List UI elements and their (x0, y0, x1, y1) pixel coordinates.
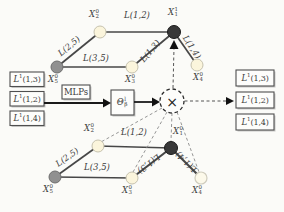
var-scripts: 04 (199, 185, 203, 194)
dashed-arrow-up-head (170, 40, 179, 49)
multiply-symbol: × (166, 94, 178, 110)
diagram-graphics: × (0, 0, 284, 212)
node-top-x4 (191, 59, 203, 71)
var-args: (1,3) (251, 74, 269, 83)
edge-label-bottom-l35: L(3,5) (84, 162, 110, 172)
var-sub: 2 (96, 14, 100, 19)
var-scripts: 02 (91, 123, 95, 132)
var-sub: 1 (175, 12, 179, 17)
var-sub: 3 (129, 190, 133, 195)
var-sub: 5 (55, 79, 59, 84)
var-base: X (89, 9, 95, 19)
mlps-label: MLPs (64, 87, 88, 97)
var-sub: 1 (180, 131, 184, 136)
solid-arrows (44, 98, 160, 108)
right-box-label-2: L1(1,2) (241, 95, 268, 105)
var-args: (1,2) (251, 96, 269, 105)
var-sup: 1 (19, 73, 23, 79)
var-base: X (125, 74, 131, 84)
var-args: (1,2) (23, 95, 41, 104)
var-sub: 4 (200, 77, 204, 82)
var-base: X (173, 126, 179, 136)
edge-bottom-l35 (55, 177, 132, 178)
dashed-arrow-right-head (226, 97, 234, 105)
node-label-top-x5: X 05 (48, 74, 58, 84)
var-sub: 4 (199, 190, 203, 195)
var-scripts: 03 (129, 185, 133, 194)
var-scripts: 04 (200, 72, 204, 81)
var-base: X (48, 74, 54, 84)
var-scripts: 03 (132, 74, 136, 83)
var-base: Θ (117, 97, 124, 107)
node-label-bottom-x1: X 01 (173, 126, 183, 136)
var-base: X (122, 185, 128, 195)
arrow-left-to-theta-head (103, 99, 111, 108)
dashed-to-x1-bottom (171, 113, 172, 141)
var-base: X (43, 184, 49, 194)
dashed-arrow-up (170, 40, 179, 88)
theta-label: Θ lβ (117, 97, 128, 107)
right-box-label-1: L1(1,3) (241, 73, 268, 83)
node-bottom-x3 (126, 172, 138, 184)
node-label-bottom-x4: X 04 (192, 185, 202, 195)
node-bottom-x2 (92, 140, 104, 152)
var-scripts: 11 (175, 7, 179, 16)
node-label-bottom-x2: X 02 (84, 123, 94, 133)
dashed-arrow-right (185, 97, 235, 105)
left-box-label-2: L1(1,2) (13, 94, 40, 104)
node-top-x1 (168, 26, 181, 39)
left-box-label-3: L1(1,4) (13, 113, 40, 123)
right-box-label-3: L1(1,4) (241, 117, 268, 127)
var-sup: 1 (247, 94, 251, 100)
node-label-top-x1: X 11 (168, 7, 178, 17)
node-label-bottom-x3: X 03 (122, 185, 132, 195)
var-scripts: 01 (180, 126, 184, 135)
dashed-arrow-up-line (173, 48, 174, 88)
node-top-x3 (126, 61, 138, 73)
var-base: X (168, 7, 174, 17)
var-scripts: lβ (124, 97, 127, 106)
edge-bottom-l12 (98, 146, 171, 148)
node-top-x5 (51, 61, 63, 73)
arrow-theta-to-multiply-head (152, 98, 160, 107)
var-args: (1,3) (23, 75, 41, 84)
var-sup: 1 (247, 116, 251, 122)
var-args: (1,4) (251, 118, 269, 127)
var-scripts: 05 (50, 184, 54, 193)
var-base: X (192, 185, 198, 195)
node-bottom-x4 (195, 172, 207, 184)
var-args: (1,4) (23, 114, 41, 123)
node-label-bottom-x5: X 05 (43, 184, 53, 194)
node-label-top-x2: X 02 (89, 9, 99, 19)
var-sup: 1 (247, 72, 251, 78)
node-label-top-x3: X 03 (125, 74, 135, 84)
var-sub: 3 (132, 79, 136, 84)
node-label-top-x4: X 04 (193, 72, 203, 82)
var-sup: 1 (19, 112, 23, 118)
var-sub: 5 (50, 189, 54, 194)
edge-label-top-l35: L(3,5) (83, 53, 109, 63)
var-scripts: 02 (96, 9, 100, 18)
var-scripts: 05 (55, 74, 59, 83)
edge-label-bottom-l12: L(1,2) (121, 127, 147, 137)
node-top-x2 (94, 26, 106, 38)
var-sub: 2 (91, 128, 95, 133)
diagram-canvas: × X 05 X 02 X 03 X 11 X 04 L(1,2) L(2,5)… (0, 0, 284, 212)
var-base: X (193, 72, 199, 82)
var-base: X (84, 123, 90, 133)
var-sup: 1 (19, 93, 23, 99)
left-box-label-1: L1(1,3) (13, 74, 40, 84)
node-bottom-x5 (49, 171, 61, 183)
edge-label-top-l12: L(1,2) (124, 10, 150, 20)
var-sub: β (124, 102, 127, 107)
